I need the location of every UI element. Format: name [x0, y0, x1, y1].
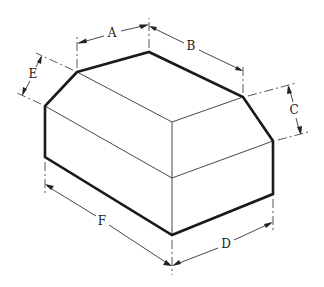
dimension-c: C: [287, 85, 302, 135]
dimension-label-e: E: [29, 67, 38, 81]
inner-edges: [45, 72, 273, 235]
arrowhead: [235, 66, 243, 71]
ext-line-e-bottom: [17, 93, 41, 104]
arrowhead: [264, 222, 273, 228]
dimension-label-b: B: [187, 39, 196, 53]
dimension-label-f: F: [98, 214, 106, 228]
arrowhead: [172, 260, 181, 266]
top-right-ridge-edge: [172, 97, 243, 122]
arrowhead: [149, 26, 157, 31]
dimension-b: B: [149, 26, 243, 71]
arrowhead: [77, 39, 87, 44]
dimension-e: E: [22, 55, 42, 96]
dimension-a: A: [77, 25, 149, 44]
dimension-label-d: D: [221, 237, 231, 251]
ext-line-c-bottom: [278, 132, 308, 140]
mid-right-edge: [172, 141, 273, 178]
top-left-ridge-edge: [77, 72, 172, 122]
arrowhead: [287, 85, 292, 94]
isometric-block-drawing: A B C E F D: [0, 0, 324, 287]
arrowhead: [139, 25, 149, 30]
block-outline: [45, 52, 273, 235]
extension-lines: [17, 18, 308, 275]
dimension-label-a: A: [107, 26, 117, 40]
dimension-label-c: C: [289, 103, 298, 117]
ext-line-e-top: [36, 53, 73, 70]
